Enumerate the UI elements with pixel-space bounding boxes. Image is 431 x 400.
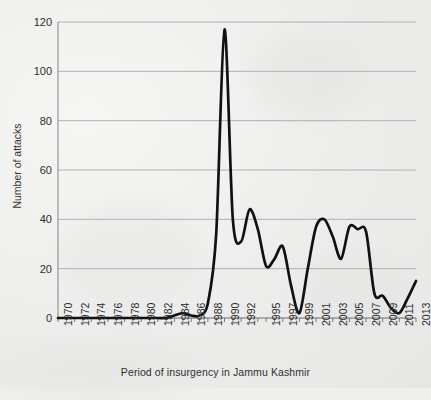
x-tick-label: 1982 — [162, 303, 174, 326]
x-tick-label: 2001 — [320, 303, 332, 326]
x-tick-label: 2011 — [403, 303, 415, 326]
x-tick-label: 1970 — [62, 303, 74, 326]
x-tick-label: 1984 — [179, 303, 191, 326]
x-tick-label: 1988 — [212, 303, 224, 326]
x-tick-label: 1972 — [79, 303, 91, 326]
x-tick-label: 1974 — [95, 303, 107, 326]
x-tick-label: 1986 — [195, 303, 207, 326]
x-tick-label: 1995 — [270, 303, 282, 326]
x-tick-label: 1976 — [112, 303, 124, 326]
x-tick-label: 2013 — [420, 303, 431, 326]
x-tick-label: 1999 — [303, 303, 315, 326]
x-tick-label: 1997 — [287, 303, 299, 326]
x-tick-label: 1990 — [229, 303, 241, 326]
x-tick-label: 1978 — [129, 303, 141, 326]
x-tick-label: 1980 — [145, 303, 157, 326]
x-tick-label: 2007 — [370, 303, 382, 326]
x-tick-label: 2003 — [337, 303, 349, 326]
x-tick-label: 2005 — [353, 303, 365, 326]
x-tick-label: 1992 — [245, 303, 257, 326]
x-tick-label: 2009 — [387, 303, 399, 326]
x-axis-title: Period of insurgency in Jammu Kashmir — [0, 366, 431, 378]
